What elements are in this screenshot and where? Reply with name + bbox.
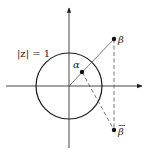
beta-label: β [117,34,124,45]
alpha-label: α [73,59,80,70]
point-beta [112,37,116,41]
point-alpha [80,70,84,74]
circle-label: |z| = 1 [17,48,50,60]
beta-bar-label-group: β [117,126,125,138]
beta-bar-label: β [117,126,124,137]
complex-plane-diagram: |z| = 1 α β β [0,0,149,154]
segment-alpha-to-beta-bar [82,72,114,130]
point-beta-bar [112,128,116,132]
